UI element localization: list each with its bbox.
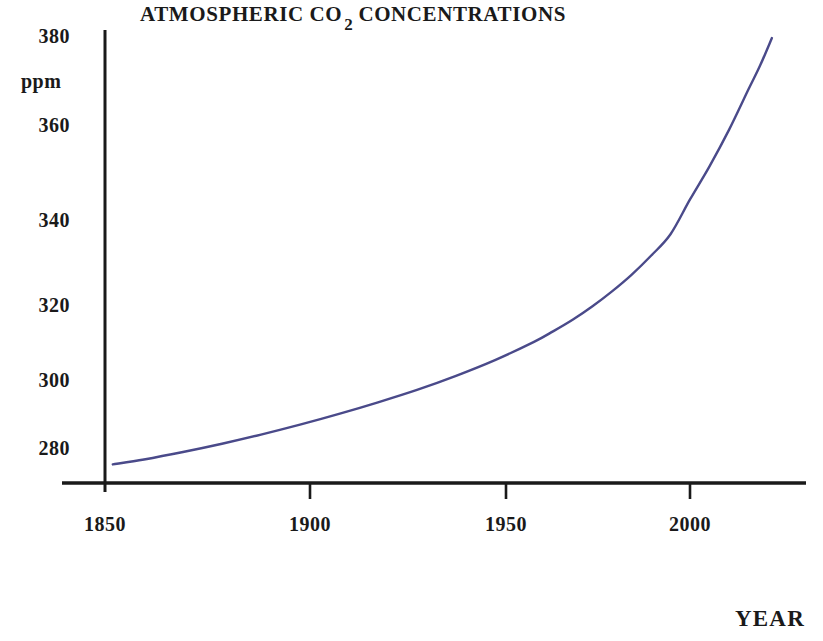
co2-concentration-chart: ATMOSPHERIC CO2CONCENTRATIONS ppm 380 36… <box>0 0 823 641</box>
co2-series-line <box>113 38 772 464</box>
plot-area <box>0 0 823 641</box>
